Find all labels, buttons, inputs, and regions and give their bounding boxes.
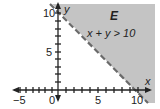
x-axis-label: x xyxy=(144,75,151,87)
y-axis xyxy=(55,4,61,100)
x-tick-label-5: 5 xyxy=(95,94,101,106)
x-axis-arrow-left xyxy=(12,87,19,93)
inequality-graph: y x E x + y > 10 −5 0 5 10 5 10 xyxy=(0,0,160,109)
x-axis xyxy=(14,87,150,93)
y-tick-label-10: 10 xyxy=(43,7,55,19)
x-tick-label-10: 10 xyxy=(131,94,143,106)
x-tick-label-neg5: −5 xyxy=(13,94,26,106)
shaded-region-E xyxy=(52,4,155,103)
region-label: E xyxy=(110,9,119,23)
inequality-label: x + y > 10 xyxy=(86,27,136,39)
y-axis-arrow-down xyxy=(55,95,61,102)
y-tick-label-5: 5 xyxy=(46,46,52,58)
x-tick-label-0: 0 xyxy=(49,94,55,106)
